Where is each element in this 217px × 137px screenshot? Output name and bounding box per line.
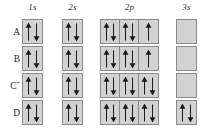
orbital-group-3s-row-d [176, 100, 197, 125]
orbital-box[interactable] [177, 47, 196, 70]
orbital-box[interactable] [101, 74, 120, 97]
arrow-up-icon [103, 76, 110, 95]
orbital-group-2p-row-c [100, 73, 159, 98]
orbital-box[interactable] [101, 101, 120, 124]
arrow-up-icon [122, 49, 129, 68]
arrow-up-icon [103, 49, 110, 68]
arrow-up-icon [122, 22, 129, 41]
arrow-down-icon [33, 49, 40, 68]
row-label-a: A [1, 27, 20, 37]
arrow-up-icon [122, 76, 129, 95]
arrow-down-icon [187, 103, 194, 122]
column-header-3s: 3s [176, 2, 197, 13]
row-label-c: C+ [1, 81, 20, 91]
arrow-down-icon [129, 22, 136, 41]
arrow-up-icon [25, 49, 32, 68]
orbital-group-1s-row-b [22, 46, 43, 71]
orbital-box[interactable] [23, 20, 42, 43]
orbital-group-1s-row-c [22, 73, 43, 98]
orbital-group-2p-row-b [100, 46, 159, 71]
orbital-box[interactable] [177, 101, 196, 124]
arrow-down-icon [149, 103, 156, 122]
arrow-down-icon [149, 76, 156, 95]
orbital-group-2s-row-d [62, 100, 83, 125]
orbital-box[interactable] [63, 47, 82, 70]
arrow-up-icon [141, 76, 148, 95]
arrow-down-icon [129, 76, 136, 95]
orbital-box[interactable] [23, 74, 42, 97]
orbital-group-1s-row-a [22, 19, 43, 44]
arrow-up-icon [65, 76, 72, 95]
orbital-group-3s-row-b [176, 46, 197, 71]
orbital-box[interactable] [177, 20, 196, 43]
orbital-box[interactable] [139, 101, 158, 124]
orbital-group-1s-row-d [22, 100, 43, 125]
arrow-down-icon [73, 22, 80, 41]
row-label-c-superscript: + [17, 80, 20, 86]
orbital-box[interactable] [63, 101, 82, 124]
orbital-box[interactable] [120, 74, 139, 97]
orbital-group-2s-row-a [62, 19, 83, 44]
arrow-up-icon [25, 22, 32, 41]
arrow-down-icon [110, 76, 117, 95]
orbital-box[interactable] [120, 20, 139, 43]
column-header-row: 1s 2s 2p 3s [0, 0, 217, 17]
row-label-b-text: B [14, 54, 20, 64]
orbital-diagram: 1s 2s 2p 3s A B C+ D [0, 0, 217, 137]
orbital-group-2s-row-c [62, 73, 83, 98]
arrow-down-icon [110, 22, 117, 41]
orbital-box[interactable] [101, 47, 120, 70]
arrow-down-icon [129, 103, 136, 122]
orbital-group-2p-row-d [100, 100, 159, 125]
arrow-up-icon [141, 103, 148, 122]
arrow-down-icon [110, 103, 117, 122]
arrow-up-icon [103, 103, 110, 122]
arrow-down-icon [33, 76, 40, 95]
orbital-box[interactable] [139, 47, 158, 70]
column-header-1s: 1s [22, 2, 43, 13]
arrow-down-icon [129, 49, 136, 68]
orbital-box[interactable] [23, 47, 42, 70]
arrow-down-icon [73, 103, 80, 122]
orbital-group-3s-row-c [176, 73, 197, 98]
arrow-up-icon [65, 103, 72, 122]
orbital-box[interactable] [23, 101, 42, 124]
column-header-2p: 2p [100, 2, 159, 13]
row-label-a-text: A [13, 27, 20, 37]
column-header-2s: 2s [62, 2, 83, 13]
arrow-up-icon [145, 49, 152, 68]
orbital-box[interactable] [63, 20, 82, 43]
arrow-up-icon [179, 103, 186, 122]
arrow-up-icon [65, 49, 72, 68]
arrow-up-icon [145, 22, 152, 41]
orbital-box[interactable] [120, 101, 139, 124]
orbital-box[interactable] [139, 20, 158, 43]
arrow-up-icon [103, 22, 110, 41]
arrow-up-icon [25, 76, 32, 95]
orbital-box[interactable] [101, 20, 120, 43]
orbital-box[interactable] [63, 74, 82, 97]
arrow-up-icon [65, 22, 72, 41]
row-label-b: B [1, 54, 20, 64]
row-label-d: D [1, 108, 20, 118]
arrow-up-icon [122, 103, 129, 122]
orbital-group-2s-row-b [62, 46, 83, 71]
row-label-d-text: D [13, 108, 20, 118]
arrow-down-icon [73, 49, 80, 68]
orbital-box[interactable] [139, 74, 158, 97]
orbital-group-3s-row-a [176, 19, 197, 44]
arrow-down-icon [33, 103, 40, 122]
arrow-up-icon [25, 103, 32, 122]
orbital-group-2p-row-a [100, 19, 159, 44]
orbital-box[interactable] [120, 47, 139, 70]
arrow-down-icon [33, 22, 40, 41]
arrow-down-icon [110, 49, 117, 68]
orbital-box[interactable] [177, 74, 196, 97]
arrow-down-icon [73, 76, 80, 95]
